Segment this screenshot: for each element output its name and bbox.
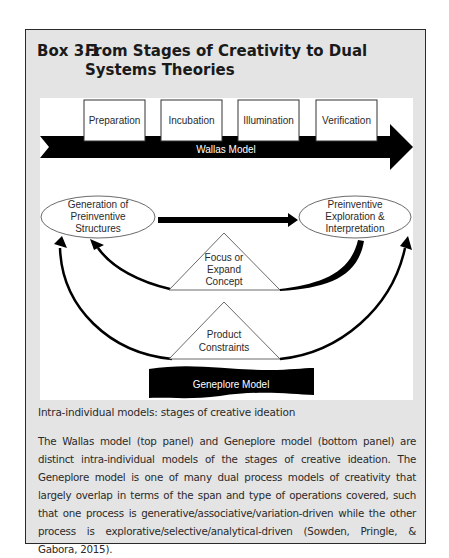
arrow-focus-to-generation (90, 239, 170, 289)
node-generation: Generation of Preinventive Structures (41, 196, 155, 238)
stage-box-preparation: Preparation (84, 100, 145, 141)
svg-text:Interpretation: Interpretation (326, 223, 385, 234)
svg-text:Geneplore Model: Geneplore Model (193, 379, 270, 390)
svg-text:Structures: Structures (75, 223, 121, 234)
wallas-model-label: Wallas Model (196, 144, 256, 155)
svg-text:Preparation: Preparation (89, 115, 141, 126)
arrow-exploration-to-focus (280, 240, 364, 291)
svg-text:Concept: Concept (205, 276, 242, 287)
svg-text:Generation of: Generation of (68, 199, 129, 210)
svg-text:Product: Product (207, 329, 242, 340)
svg-text:Incubation: Incubation (168, 115, 214, 126)
arrow-generation-to-exploration (158, 213, 298, 227)
geneplore-banner: Geneplore Model (149, 366, 314, 398)
svg-text:Focus or: Focus or (205, 252, 245, 263)
svg-text:Preinventive: Preinventive (70, 211, 125, 222)
figure-panel: Preparation Incubation Illumination Veri… (40, 98, 413, 400)
svg-text:Constraints: Constraints (199, 342, 250, 353)
figure-caption: Intra-individual models: stages of creat… (38, 406, 418, 418)
box-3-1: Box 3.1 From Stages of Creativity to Dua… (25, 29, 426, 544)
svg-text:Preinventive: Preinventive (327, 199, 382, 210)
stage-box-verification: Verification (316, 100, 377, 141)
triangle-product-constraints: Product Constraints (169, 302, 280, 359)
box-title-text: From Stages of Creativity to Dual System… (85, 42, 415, 80)
stage-box-incubation: Incubation (161, 100, 222, 141)
triangle-focus-expand: Focus or Expand Concept (169, 233, 280, 290)
arrow-constraints-to-exploration (280, 236, 412, 359)
node-exploration: Preinventive Exploration & Interpretatio… (299, 196, 411, 238)
svg-text:Verification: Verification (322, 115, 371, 126)
svg-text:Exploration &: Exploration & (325, 211, 385, 222)
stage-box-illumination: Illumination (238, 100, 299, 141)
svg-text:Expand: Expand (207, 264, 241, 275)
box-body-text: The Wallas model (top panel) and Geneplo… (38, 432, 416, 558)
arrow-constraints-to-generation (54, 236, 172, 359)
svg-text:Illumination: Illumination (243, 115, 294, 126)
models-diagram: Preparation Incubation Illumination Veri… (40, 98, 413, 400)
